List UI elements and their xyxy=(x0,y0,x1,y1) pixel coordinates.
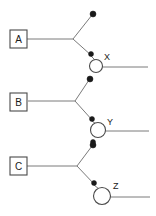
edge-junction-c-to-dot-upper xyxy=(77,146,92,166)
dot-b-upper[interactable] xyxy=(87,76,93,82)
open-circle-x[interactable] xyxy=(90,60,103,73)
branch-group-c: C Z xyxy=(10,142,150,205)
node-box-b-label: B xyxy=(15,97,22,108)
branching-diagram: A X B Y xyxy=(0,0,156,216)
dot-a-lower[interactable] xyxy=(89,52,94,57)
node-box-a-label: A xyxy=(15,34,22,45)
dot-a-upper[interactable] xyxy=(90,11,96,17)
diagram-canvas: A X B Y xyxy=(0,0,156,216)
dot-b-lower[interactable] xyxy=(90,117,95,122)
open-circle-y-label: Y xyxy=(107,117,113,127)
node-box-c-label: C xyxy=(15,161,22,172)
open-circle-y[interactable] xyxy=(91,123,106,138)
open-circle-z-label: Z xyxy=(113,181,119,191)
branch-group-b: B Y xyxy=(10,76,149,145)
branch-group-a: A X xyxy=(10,11,148,73)
open-circle-z[interactable] xyxy=(94,188,111,205)
edge-junction-a-to-dot-upper xyxy=(73,15,92,39)
dot-c-upper[interactable] xyxy=(90,142,96,148)
open-circle-x-label: X xyxy=(104,52,110,62)
edge-junction-b-to-dot-upper xyxy=(75,80,89,101)
dot-c-lower[interactable] xyxy=(92,181,97,186)
